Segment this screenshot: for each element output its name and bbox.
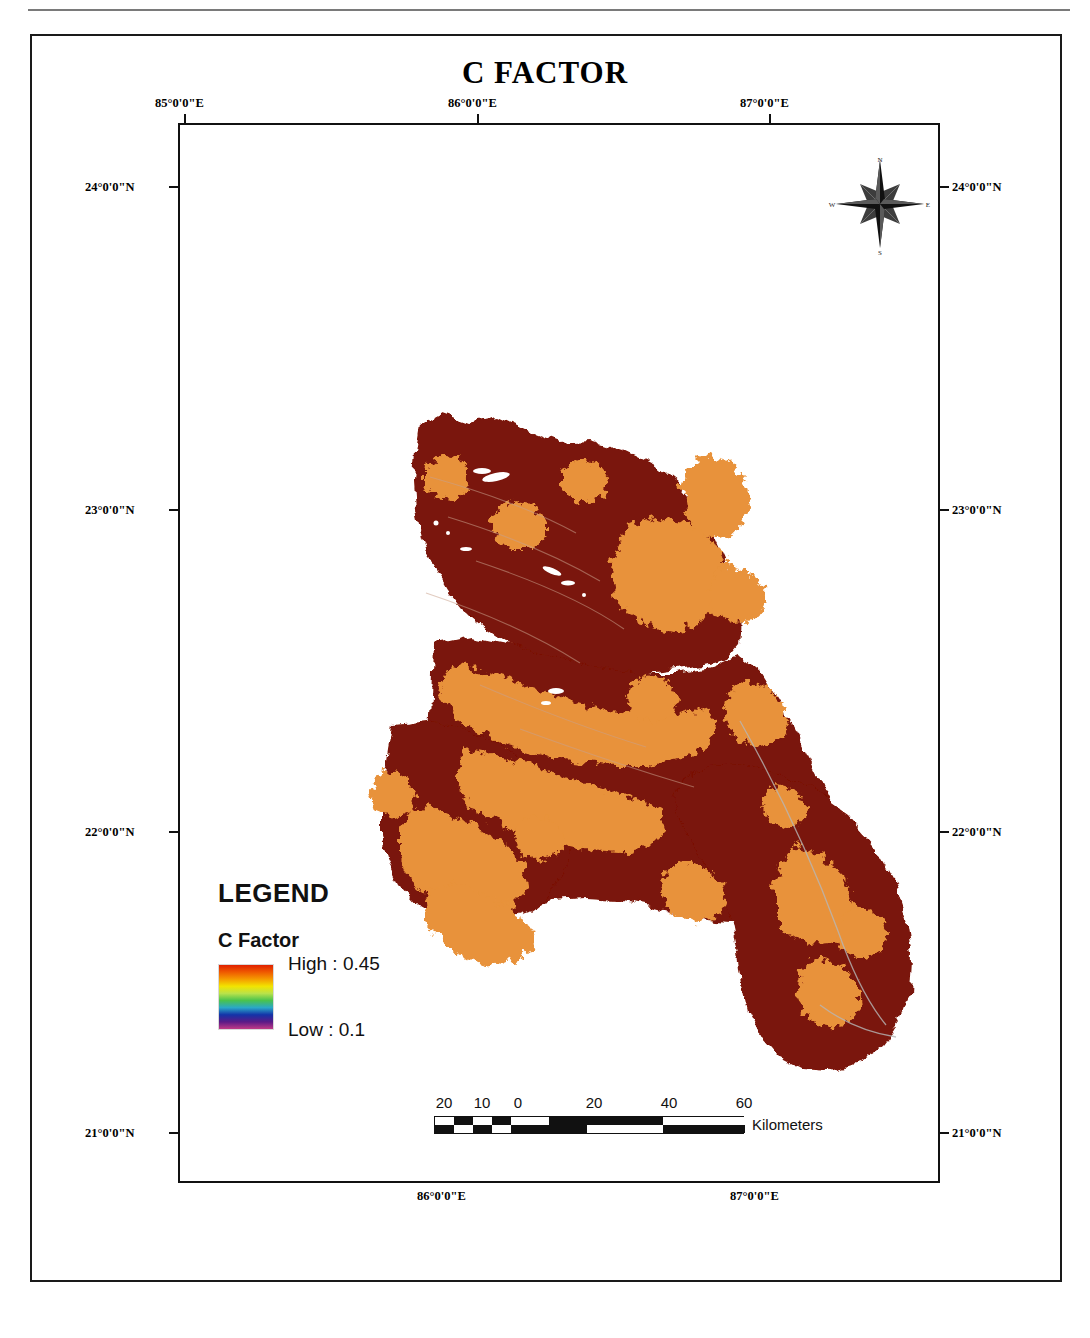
compass-label-e: E [926,201,930,209]
graticule-label-right-0: 24°0'0"N [952,180,1001,195]
scale-number-1: 10 [474,1094,491,1111]
graticule-tick-right-0 [939,186,949,188]
north-arrow-icon: N S W E [828,152,932,256]
scale-bar: 20 10 0 20 40 60 Kilometers [434,1094,764,1134]
scale-number-0: 20 [436,1094,453,1111]
compass-label-w: W [829,201,836,209]
legend-ramp-row: High : 0.45 Low : 0.1 [218,964,438,1041]
legend-ramp-labels: High : 0.45 Low : 0.1 [288,953,380,1041]
graticule-label-top-1: 86°0'0"E [448,96,497,111]
graticule-label-bottom-0: 86°0'0"E [417,1189,466,1204]
graticule-tick-right-3 [939,1132,949,1134]
scale-number-3: 20 [586,1094,603,1111]
graticule-label-left-3: 21°0'0"N [85,1126,134,1141]
legend-low-label: Low : 0.1 [288,1019,380,1041]
graticule-label-top-0: 85°0'0"E [155,96,204,111]
page-title: C FACTOR [0,55,1090,91]
scale-number-5: 60 [736,1094,753,1111]
page-top-rule [28,9,1070,11]
graticule-label-right-2: 22°0'0"N [952,825,1001,840]
scale-number-4: 40 [661,1094,678,1111]
graticule-tick-right-2 [939,831,949,833]
graticule-label-right-3: 21°0'0"N [952,1126,1001,1141]
scale-bar-unit-label: Kilometers [752,1116,823,1133]
scale-number-2: 0 [514,1094,522,1111]
legend-title: LEGEND [218,878,438,909]
compass-label-s: S [878,249,882,256]
legend: LEGEND C Factor High : 0.45 Low : 0.1 [218,878,438,1041]
graticule-label-left-1: 23°0'0"N [85,503,134,518]
graticule-tick-right-1 [939,509,949,511]
graticule-label-top-2: 87°0'0"E [740,96,789,111]
scale-bar-graphic [434,1116,744,1134]
compass-label-n: N [877,156,882,164]
legend-color-ramp [218,964,274,1030]
graticule-label-left-2: 22°0'0"N [85,825,134,840]
graticule-label-right-1: 23°0'0"N [952,503,1001,518]
legend-subtitle: C Factor [218,929,438,952]
legend-high-label: High : 0.45 [288,953,380,975]
graticule-label-left-0: 24°0'0"N [85,180,134,195]
graticule-label-bottom-1: 87°0'0"E [730,1189,779,1204]
scale-bar-numbers: 20 10 0 20 40 60 [434,1094,764,1114]
